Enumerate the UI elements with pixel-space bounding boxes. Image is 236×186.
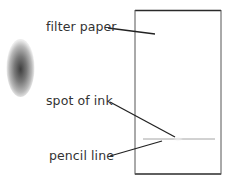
leader-pencil-line bbox=[110, 141, 162, 156]
chromatography-diagram: filter paper spot of ink pencil line bbox=[0, 0, 236, 186]
leader-spot-of-ink bbox=[110, 102, 175, 137]
pencil-line-graphic bbox=[143, 136, 215, 142]
label-spot-of-ink: spot of ink bbox=[46, 94, 113, 108]
diagram-graphics bbox=[0, 0, 236, 186]
label-filter-paper: filter paper bbox=[46, 20, 117, 34]
ink-spot-enlarged bbox=[7, 39, 35, 97]
label-pencil-line: pencil line bbox=[49, 149, 114, 163]
filter-paper-rect bbox=[135, 10, 221, 175]
leader-lines bbox=[108, 28, 175, 156]
